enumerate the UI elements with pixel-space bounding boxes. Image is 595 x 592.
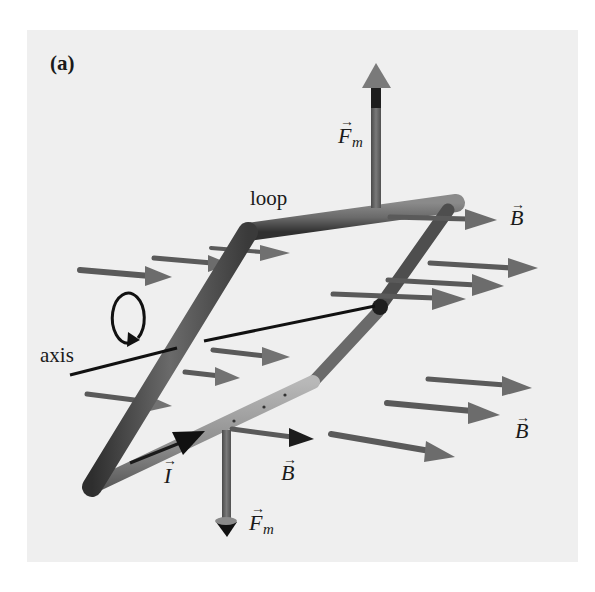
field-arrow — [213, 347, 290, 366]
force-label-top: → F m — [337, 114, 363, 150]
force-arrow-down — [215, 430, 237, 537]
force-arrow-up — [362, 63, 391, 208]
field-label-top-right: → B — [510, 197, 525, 230]
field-symbol: B — [510, 205, 523, 230]
field-arrows-front — [232, 209, 538, 462]
field-symbol: B — [515, 418, 528, 443]
force-symbol: F — [248, 510, 263, 535]
field-arrow — [80, 266, 172, 286]
force-symbol: F — [337, 123, 352, 148]
field-arrow — [333, 288, 466, 310]
field-arrow — [387, 402, 500, 424]
force-subscript: m — [263, 521, 274, 537]
field-label-right: → B — [515, 410, 530, 443]
current-label: → I — [163, 453, 177, 488]
field-arrow — [185, 367, 240, 386]
panel-label: (a) — [50, 51, 75, 75]
field-arrow — [430, 258, 538, 278]
field-label-bottom: → B — [281, 452, 297, 485]
loop-right-lower-segment — [313, 312, 378, 382]
force-label-bottom: → F m — [248, 501, 274, 537]
magnetic-loop-diagram: (a) — [0, 0, 595, 592]
field-symbol: B — [281, 460, 294, 485]
axis-label: axis — [40, 343, 74, 367]
force-subscript: m — [352, 134, 363, 150]
loop-label: loop — [250, 186, 287, 210]
field-arrow-bottom — [232, 428, 314, 447]
field-arrow — [331, 434, 455, 462]
field-arrow — [428, 376, 532, 396]
